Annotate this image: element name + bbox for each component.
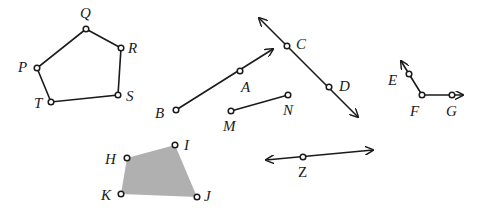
point-p-label: P (17, 59, 27, 75)
point-f-label: F (409, 103, 420, 119)
point-n-marker (285, 92, 291, 98)
point-r-marker (118, 45, 124, 51)
line-cd: CD (259, 18, 358, 117)
point-h-label: H (104, 151, 117, 167)
ray-fe-line (401, 61, 422, 95)
quadrilateral-hijk: HIJK (100, 137, 212, 204)
point-c-label: C (296, 36, 307, 52)
point-d-marker (326, 84, 332, 90)
point-e-label: E (387, 72, 397, 88)
point-r-label: R (127, 40, 137, 56)
pentagon-pqrst: QRSTP (17, 5, 137, 111)
point-j-marker (194, 194, 200, 200)
segment-mn-line (231, 95, 288, 111)
point-d-label: D (338, 78, 350, 94)
geometry-figures-canvas: QRSTP BA CD MN EFG HIJK (0, 0, 481, 213)
point-a-marker (237, 68, 243, 74)
point-e-marker (406, 71, 412, 77)
point-q-marker (83, 26, 89, 32)
point-s-marker (115, 92, 121, 98)
point-b-marker (173, 107, 179, 113)
point-z-marker (300, 154, 306, 160)
point-m-label: M (222, 118, 237, 134)
point-k-marker (118, 191, 124, 197)
point-h-marker (124, 155, 130, 161)
point-t-marker (48, 99, 54, 105)
point-g-label: G (446, 103, 457, 119)
line-cd-line (259, 18, 358, 117)
point-i-marker (172, 142, 178, 148)
point-i-label: I (183, 137, 190, 153)
point-z-label: Z (298, 164, 307, 180)
point-m-marker (228, 108, 234, 114)
angle-efg: EFG (387, 61, 463, 119)
figures-svg: QRSTP BA CD MN EFG HIJK (0, 0, 481, 213)
point-p-marker (34, 65, 40, 71)
point-q-label: Q (80, 5, 91, 21)
point-c-marker (284, 43, 290, 49)
line-z: Z (266, 150, 373, 180)
ray-ba: BA (155, 49, 273, 121)
point-s-label: S (126, 88, 134, 104)
point-b-label: B (155, 105, 164, 121)
ray-ba-line (176, 49, 273, 110)
point-n-label: N (282, 102, 294, 118)
point-k-label: K (100, 187, 112, 203)
point-f-marker (419, 92, 425, 98)
pentagon-outline (37, 29, 121, 102)
line-z-line (266, 150, 373, 160)
point-g-marker (449, 92, 455, 98)
point-a-label: A (240, 79, 251, 95)
point-j-label: J (204, 188, 212, 204)
segment-mn: MN (222, 92, 294, 134)
point-t-label: T (34, 95, 44, 111)
